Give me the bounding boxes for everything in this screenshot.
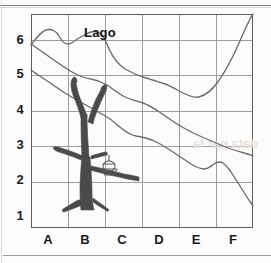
- y-axis-label-6: 6: [12, 33, 28, 46]
- page-edge-left: [1, 0, 2, 263]
- y-axis-label-2: 2: [12, 173, 28, 186]
- x-axis-label-e: E: [186, 233, 206, 247]
- y-axis-label-5: 5: [12, 67, 28, 80]
- page-rule-top-faint: [0, 7, 271, 8]
- page-rule-bottom: [3, 255, 271, 256]
- y-axis-label-4: 4: [12, 103, 28, 116]
- x-axis-label-d: D: [149, 233, 169, 247]
- y-axis-label-1: 1: [12, 209, 28, 222]
- x-axis-label-f: F: [223, 233, 243, 247]
- figure-title: Lago: [84, 25, 116, 40]
- x-axis-label-b: B: [75, 233, 95, 247]
- y-axis-label-3: 3: [12, 138, 28, 151]
- page-rule-top: [0, 5, 271, 6]
- x-axis-label-a: A: [38, 233, 58, 247]
- x-axis-label-c: C: [112, 233, 132, 247]
- map-figure: 6 5 4 3 2 1 A B C D E F data per la: [0, 0, 271, 263]
- sailboat-shape-group: [101, 155, 117, 175]
- sailboat-icon: [31, 14, 253, 228]
